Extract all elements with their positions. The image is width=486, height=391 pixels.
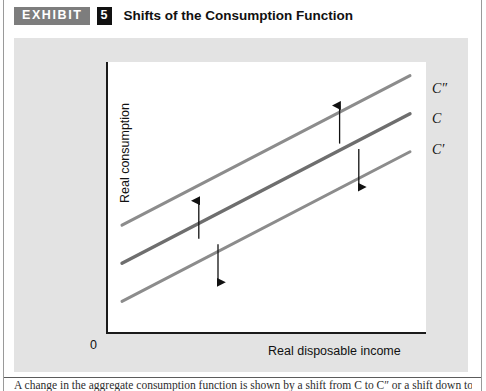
x-axis-label: Real disposable income — [268, 344, 401, 358]
exhibit-badge: EXHIBIT — [14, 7, 90, 25]
exhibit-number-badge: 5 — [97, 7, 112, 25]
series-line-c-prime — [122, 152, 410, 302]
exhibit-page: EXHIBIT 5 Shifts of the Consumption Func… — [0, 0, 486, 391]
chart-lines-svg — [106, 62, 426, 334]
curve-label-c: C — [432, 111, 441, 127]
exhibit-caption: A change in the aggregate consumption fu… — [14, 379, 472, 391]
series-line-c — [122, 114, 410, 264]
shift-arrows — [199, 106, 359, 283]
chart-panel: C″ C C′ Real consumption Real disposable… — [14, 38, 468, 372]
curve-label-c-double-prime: C″ — [432, 81, 447, 97]
curve-label-c-prime: C′ — [432, 142, 444, 158]
exhibit-header: EXHIBIT 5 Shifts of the Consumption Func… — [14, 6, 353, 25]
page-title: Shifts of the Consumption Function — [124, 8, 353, 23]
origin-label: 0 — [90, 338, 97, 352]
page-right-rule — [481, 0, 482, 391]
page-left-rule — [3, 0, 4, 391]
plot-area — [106, 62, 426, 334]
caption-divider — [4, 377, 481, 378]
y-axis-label: Real consumption — [118, 88, 132, 218]
series-line-c-double-prime — [122, 76, 410, 226]
